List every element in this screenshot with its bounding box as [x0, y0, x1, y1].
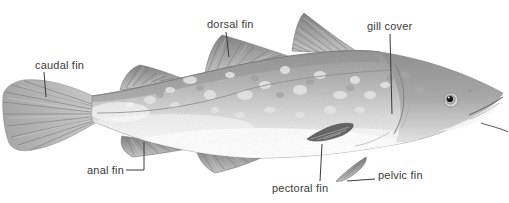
label-anal-fin: anal fin — [87, 165, 124, 176]
chin-barbel — [481, 123, 508, 132]
label-gill-cover: gill cover — [367, 21, 412, 32]
caudal-fin-shape — [3, 80, 95, 151]
label-pectoral-fin: pectoral fin — [272, 183, 328, 194]
label-caudal-fin: caudal fin — [35, 60, 84, 71]
label-dorsal-fin: dorsal fin — [207, 19, 254, 30]
leader-pelvic-fin — [347, 179, 375, 181]
eye — [444, 93, 458, 107]
fish-illustration — [0, 0, 509, 203]
nostril — [469, 90, 471, 92]
fish-anatomy-diagram: caudal fin dorsal fin gill cover anal fi… — [0, 0, 509, 203]
pelvic-fin-shape — [336, 157, 366, 181]
label-pelvic-fin: pelvic fin — [378, 170, 423, 181]
dorsal-fin-front-shape — [292, 13, 359, 53]
